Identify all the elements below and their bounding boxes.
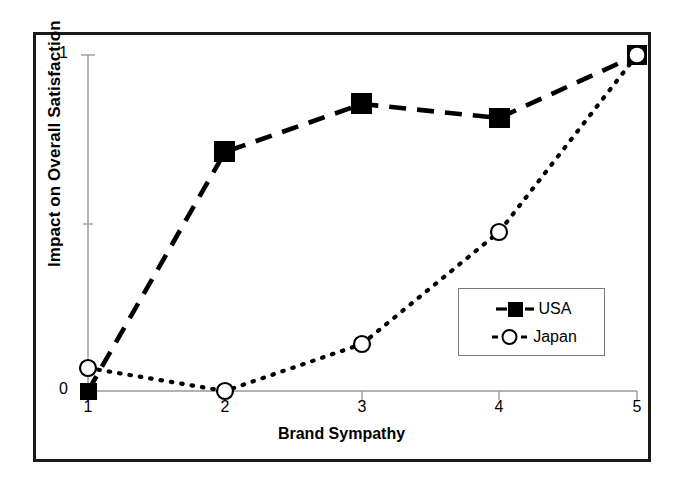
chart-legend: USA Japan [458,288,605,356]
x-tick-label-2: 2 [205,398,245,416]
legend-label-usa: USA [539,300,572,318]
y-tick-label-0: 0 [40,380,68,398]
chart-page: Impact on Overall Satisfaction 1 0 1 2 3… [0,0,683,488]
x-tick-label-4: 4 [479,398,519,416]
y-axis-title: Impact on Overall Satisfaction [45,37,65,267]
legend-marker-japan [488,327,532,347]
x-axis-title: Brand Sympathy [0,425,683,443]
legend-label-japan: Japan [533,328,577,346]
legend-marker-usa [494,299,538,319]
legend-item-japan: Japan [459,325,606,349]
x-tick-label-3: 3 [342,398,382,416]
legend-item-usa: USA [459,297,606,321]
open-circle-icon [503,330,517,344]
y-tick-label-1: 1 [40,44,68,62]
filled-square-icon [508,302,523,317]
x-tick-label-5: 5 [617,398,657,416]
x-tick-label-1: 1 [68,398,108,416]
